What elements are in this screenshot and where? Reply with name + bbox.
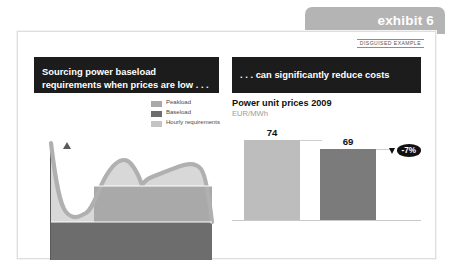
chart-subtitle: EUR/MWh — [232, 109, 268, 118]
legend-swatch-peakload — [151, 101, 162, 107]
bar-value-fixed-contract: 74 — [244, 127, 300, 138]
triangle-down-icon — [389, 148, 395, 154]
legend-label-peakload: Peakload — [166, 99, 191, 107]
delta-badge: -7% — [397, 144, 422, 157]
sourcing-area-chart — [34, 113, 219, 260]
leader-line-left — [300, 140, 322, 141]
right-panel: . . . can significantly reduce costs Pow… — [232, 57, 421, 93]
chart-title: Power unit prices 2009 — [232, 98, 332, 108]
bar-broker — [320, 149, 376, 220]
left-panel-heading: Sourcing power baseload requirements whe… — [34, 57, 219, 93]
hourly-requirements-curve — [34, 113, 219, 260]
bar-fixed-contract — [244, 140, 300, 220]
exhibit-tab: exhibit 6 — [305, 7, 445, 34]
price-bar-chart: 74 69 -7% Fixed contract 1 year ahed Bro… — [232, 121, 421, 221]
chart-baseline — [232, 220, 421, 221]
slide-page: DISGUISED EXAMPLE Sourcing power baseloa… — [17, 31, 436, 259]
legend-item-peakload: Peakload — [151, 99, 221, 107]
bar-value-broker: 69 — [320, 136, 376, 147]
right-panel-heading: . . . can significantly reduce costs — [232, 57, 421, 93]
left-panel: Sourcing power baseload requirements whe… — [34, 57, 219, 93]
delta-annotation: -7% — [389, 144, 421, 157]
exhibit-tab-label: exhibit 6 — [377, 13, 434, 28]
disguised-example-stamp: DISGUISED EXAMPLE — [357, 39, 424, 48]
